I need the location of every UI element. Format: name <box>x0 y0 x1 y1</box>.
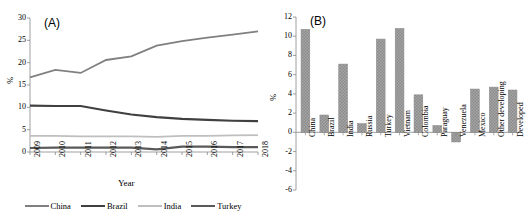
panel-b-y-tick-label: 8 <box>266 50 292 59</box>
panel-b-y-tick-label: 6 <box>266 70 292 79</box>
panel-b-y-tick-label: -2 <box>266 147 292 156</box>
panel-a-x-tick-label: 2009 <box>33 141 42 157</box>
panel-b-x-tick-label: Developed <box>516 103 525 138</box>
legend-label: India <box>164 201 181 211</box>
legend-label: Turkey <box>217 201 241 211</box>
panel-b-x-tick-label: Venezuela <box>459 104 468 137</box>
panel-b-x-tick-label: Russia <box>365 116 374 137</box>
panel-a-line-chart: (A) % Year 051015202530 2009201020112012… <box>0 0 266 218</box>
panel-a-x-tick-label: 2011 <box>84 141 93 157</box>
panel-b-x-tick-label: Colombia <box>421 106 430 138</box>
legend-swatch-icon <box>81 205 105 207</box>
legend-item-turkey[interactable]: Turkey <box>191 201 241 211</box>
legend-item-india[interactable]: India <box>138 201 181 211</box>
panel-a-x-tick-label: 2014 <box>160 141 169 157</box>
panel-a-legend: ChinaBrazilIndiaTurkey <box>0 198 266 214</box>
panel-a-plot <box>0 0 266 218</box>
panel-a-x-tick-label: 2010 <box>58 141 67 157</box>
legend-swatch-icon <box>25 205 49 207</box>
panel-b-x-tick-label: Mexico <box>478 113 487 137</box>
legend-label: Brazil <box>107 201 128 211</box>
panel-b-plot <box>266 0 532 218</box>
figure-container: (A) % Year 051015202530 2009201020112012… <box>0 0 532 218</box>
panel-a-y-tick-label: 0 <box>0 147 26 156</box>
legend-item-brazil[interactable]: Brazil <box>81 201 128 211</box>
panel-a-y-tick-label: 20 <box>0 58 26 67</box>
panel-a-y-tick-label: 25 <box>0 35 26 44</box>
panel-a-x-tick-label: 2016 <box>210 141 219 157</box>
panel-a-x-tick-label: 2015 <box>185 141 194 157</box>
panel-a-x-tick-label: 2017 <box>236 141 245 157</box>
panel-b-x-tick-label: Vietnam <box>403 110 412 137</box>
legend-swatch-icon <box>138 205 162 207</box>
panel-b-y-tick-label: 4 <box>266 89 292 98</box>
legend-label: China <box>51 201 71 211</box>
panel-b-y-tick-label: 0 <box>266 127 292 136</box>
panel-b-x-tick-label: Brazil <box>327 118 336 138</box>
legend-swatch-icon <box>191 205 215 207</box>
panel-b-bar-chart: (B) % -6-4-2024681012 ChinaBrazilIndiaRu… <box>266 0 532 218</box>
panel-b-y-tick-label: 12 <box>266 12 292 21</box>
panel-a-y-tick-label: 15 <box>0 80 26 89</box>
panel-b-x-tick-label: Other developing <box>497 82 506 138</box>
panel-b-y-tick-label: -4 <box>266 166 292 175</box>
panel-b-y-tick-label: 10 <box>266 31 292 40</box>
panel-b-y-tick-label: 2 <box>266 108 292 117</box>
panel-b-x-tick-label: Turkey <box>384 115 393 138</box>
panel-b-x-tick-label: Paraguay <box>440 108 449 138</box>
panel-a-y-tick-label: 10 <box>0 102 26 111</box>
panel-a-x-tick-label: 2012 <box>109 141 118 157</box>
legend-item-china[interactable]: China <box>25 201 71 211</box>
panel-b-x-tick-label: China <box>308 118 317 137</box>
panel-a-y-tick-label: 30 <box>0 13 26 22</box>
panel-a-y-tick-label: 5 <box>0 125 26 134</box>
panel-a-x-tick-label: 2013 <box>134 141 143 157</box>
panel-b-x-tick-label: India <box>346 121 355 137</box>
panel-b-y-tick-label: -6 <box>266 185 292 194</box>
